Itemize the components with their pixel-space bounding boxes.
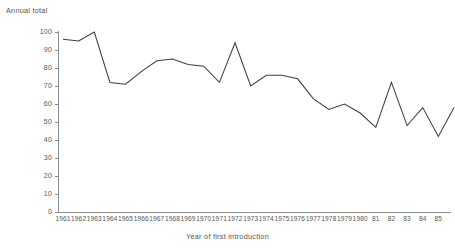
data-line-annual-total	[63, 32, 454, 136]
line-chart: Annual total 0102030405060708090100 1961…	[0, 0, 455, 248]
series-layer	[0, 0, 455, 248]
x-axis-title: Year of first introduction	[0, 232, 455, 241]
